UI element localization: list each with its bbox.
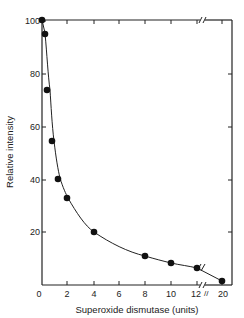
data-point [142,253,149,260]
y-tick-label: 40 [30,175,40,185]
axis-break-marks [197,17,206,288]
data-point [168,260,175,267]
x-tick-label: 8 [142,289,147,299]
data-point [42,31,49,38]
y-tick-label: 20 [30,227,40,237]
data-point [55,176,62,183]
x-tick-labels: 0 2 4 6 8 10 12 20 [36,289,228,299]
x-ticks [67,20,222,285]
x-tick-label: 6 [116,289,121,299]
data-point [39,17,46,24]
x-break-label: // [204,289,209,298]
data-point [219,278,226,285]
plot-frame [42,20,232,285]
data-point [91,229,98,236]
x-tick-label: 20 [218,289,228,299]
x-axis-label: Superoxide dismutase (units) [75,304,198,315]
data-points [39,17,226,285]
y-tick-label: 60 [30,122,40,132]
y-tick-labels: 20 40 60 80 100 [25,16,40,237]
y-axis-label: Relative intensity [4,116,15,188]
x-tick-label: 10 [166,289,176,299]
data-point [49,138,56,145]
x-tick-label: 4 [91,289,96,299]
y-tick-label: 80 [30,69,40,79]
data-point [44,87,51,94]
fit-curve [42,20,222,281]
y-ticks [42,21,232,232]
x-tick-label: 2 [64,289,69,299]
chart: 0 2 4 6 8 10 12 20 // 20 40 60 80 100 Su… [0,0,244,318]
data-point [194,265,201,272]
y-tick-label: 100 [25,16,40,26]
data-point [64,195,71,202]
x-tick-label: 12 [191,289,201,299]
x-tick-label: 0 [36,289,41,299]
